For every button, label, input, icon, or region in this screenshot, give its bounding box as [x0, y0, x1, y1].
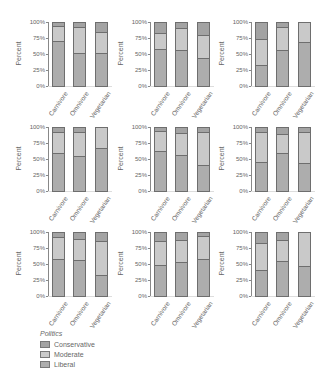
y-tick-mark — [249, 127, 251, 128]
segment-liberal — [176, 156, 187, 191]
segment-moderate — [299, 133, 310, 164]
segment-moderate — [176, 134, 187, 157]
y-tick-label: 0% — [23, 188, 45, 194]
segment-moderate — [53, 238, 64, 260]
y-tick-mark — [148, 127, 150, 128]
bar-omnivore — [276, 22, 289, 87]
y-tick-label: 75% — [125, 140, 147, 146]
y-tick-mark — [249, 175, 251, 176]
legend-item-moderate: Moderate — [40, 349, 95, 359]
segment-liberal — [96, 54, 107, 86]
bar-vegetarian — [197, 22, 210, 87]
y-tick-mark — [148, 248, 150, 249]
y-tick-mark — [46, 248, 48, 249]
segment-liberal — [176, 263, 187, 296]
y-tick-label: 50% — [125, 51, 147, 57]
y-axis-label: Percent — [218, 146, 225, 170]
segment-liberal — [299, 43, 310, 86]
y-tick-label: 50% — [226, 261, 248, 267]
y-tick-label: 100% — [226, 19, 248, 25]
y-tick-label: 50% — [125, 261, 147, 267]
y-tick-label: 25% — [23, 67, 45, 73]
segment-moderate — [96, 242, 107, 275]
x-tick-label: Omnivore — [68, 195, 90, 222]
y-tick-mark — [46, 143, 48, 144]
bar-omnivore — [276, 127, 289, 192]
segment-conservative — [74, 233, 85, 240]
segment-moderate — [277, 135, 288, 155]
segment-moderate — [74, 240, 85, 261]
x-tick-label: Omnivore — [271, 90, 293, 117]
segment-liberal — [299, 164, 310, 191]
y-axis-line — [150, 22, 151, 86]
y-axis-label: Percent — [117, 251, 124, 275]
segment-liberal — [277, 51, 288, 86]
segment-moderate — [155, 242, 166, 265]
x-tick-label: Carnivore — [47, 90, 69, 117]
legend-item-liberal: Liberal — [40, 359, 95, 369]
x-tick-label: Carnivore — [250, 300, 272, 327]
segment-liberal — [198, 59, 209, 86]
segment-liberal — [53, 260, 64, 296]
y-tick-mark — [249, 143, 251, 144]
segment-conservative — [155, 23, 166, 34]
segment-conservative — [256, 233, 267, 244]
legend-swatch-conservative — [40, 341, 50, 348]
y-tick-label: 0% — [23, 83, 45, 89]
bar-carnivore — [154, 127, 167, 192]
y-tick-mark — [46, 232, 48, 233]
y-tick-mark — [148, 264, 150, 265]
segment-moderate — [53, 27, 64, 41]
bar-omnivore — [73, 232, 86, 297]
segment-liberal — [256, 163, 267, 191]
y-tick-label: 25% — [125, 172, 147, 178]
bar-carnivore — [255, 127, 268, 192]
y-tick-mark — [148, 70, 150, 71]
y-tick-mark — [148, 143, 150, 144]
segment-liberal — [53, 42, 64, 86]
y-tick-label: 50% — [23, 51, 45, 57]
y-tick-mark — [46, 127, 48, 128]
y-tick-label: 50% — [23, 261, 45, 267]
legend: Politics Conservative Moderate Liberal — [40, 330, 95, 369]
x-tick-label: Vegetarian — [291, 300, 315, 329]
y-tick-mark — [46, 38, 48, 39]
y-tick-label: 100% — [23, 19, 45, 25]
y-tick-label: 75% — [226, 140, 248, 146]
y-tick-label: 0% — [125, 293, 147, 299]
x-tick-label: Vegetarian — [88, 90, 112, 119]
y-tick-mark — [148, 22, 150, 23]
bar-omnivore — [175, 127, 188, 192]
x-tick-label: Carnivore — [149, 195, 171, 222]
y-axis-label: Percent — [218, 251, 225, 275]
y-tick-mark — [249, 54, 251, 55]
x-tick-label: Vegetarian — [88, 195, 112, 224]
y-tick-label: 50% — [226, 51, 248, 57]
legend-swatch-moderate — [40, 351, 50, 358]
bar-vegetarian — [197, 127, 210, 192]
y-tick-label: 0% — [226, 83, 248, 89]
segment-conservative — [277, 233, 288, 241]
y-tick-label: 100% — [125, 124, 147, 130]
y-tick-mark — [46, 22, 48, 23]
y-tick-label: 50% — [226, 156, 248, 162]
segment-liberal — [155, 50, 166, 86]
y-tick-label: 75% — [226, 35, 248, 41]
segment-liberal — [256, 66, 267, 86]
y-tick-label: 75% — [125, 35, 147, 41]
y-axis-label: Percent — [15, 251, 22, 275]
segment-liberal — [74, 54, 85, 86]
segment-conservative — [155, 233, 166, 242]
y-tick-label: 100% — [125, 229, 147, 235]
y-tick-label: 75% — [23, 245, 45, 251]
y-tick-label: 75% — [125, 245, 147, 251]
x-tick-label: Omnivore — [271, 300, 293, 327]
y-tick-label: 100% — [226, 229, 248, 235]
segment-liberal — [198, 260, 209, 296]
segment-liberal — [96, 149, 107, 191]
bar-carnivore — [255, 232, 268, 297]
y-tick-label: 25% — [125, 67, 147, 73]
segment-liberal — [256, 271, 267, 296]
y-axis-label: Percent — [15, 41, 22, 65]
x-tick-label: Carnivore — [149, 300, 171, 327]
